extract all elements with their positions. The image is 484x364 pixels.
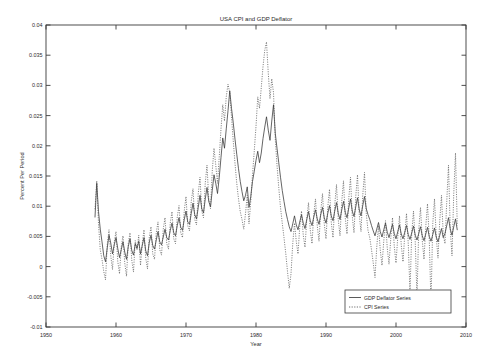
legend-label-gdp-deflator: GDP Deflator Series (364, 295, 411, 301)
y-axis-label: Percent Per Period (19, 152, 25, 199)
chart-legend[interactable]: GDP Deflator Series CPI Series (345, 290, 451, 313)
y-tick-label: 0.03 (32, 82, 43, 88)
y-tick-label: 0.04 (32, 22, 43, 28)
y-tick-label: 0.025 (29, 113, 43, 119)
x-tick-label: 1980 (250, 332, 262, 338)
legend-label-cpi: CPI Series (364, 304, 389, 310)
x-tick-label: 2010 (460, 332, 472, 338)
y-tick-label: 0.02 (32, 143, 43, 149)
data-series-group (95, 42, 457, 304)
y-tick-label: 0.035 (29, 52, 43, 58)
series-gdp-deflator (95, 91, 457, 262)
x-axis-label: Year (250, 341, 261, 347)
y-axis-ticks: -0.01-0.00500.0050.010.0150.020.0250.030… (27, 22, 466, 330)
x-tick-label: 1970 (180, 332, 192, 338)
legend-box (345, 290, 451, 313)
chart-title: USA CPI and GDP Deflator (220, 16, 293, 22)
figure-canvas: -0.01-0.00500.0050.010.0150.020.0250.030… (0, 0, 484, 364)
y-tick-label: 0 (40, 264, 43, 270)
series-cpi (95, 42, 457, 304)
x-tick-label: 1950 (40, 332, 52, 338)
x-tick-label: 1960 (110, 332, 122, 338)
x-tick-label: 1990 (320, 332, 332, 338)
y-tick-label: -0.005 (27, 294, 42, 300)
chart-plot[interactable]: -0.01-0.00500.0050.010.0150.020.0250.030… (0, 0, 484, 364)
y-tick-label: 0.01 (32, 203, 43, 209)
y-tick-label: 0.015 (29, 173, 43, 179)
plot-frame (46, 25, 466, 327)
y-tick-label: -0.01 (30, 324, 42, 330)
x-tick-label: 2000 (390, 332, 402, 338)
y-tick-label: 0.005 (29, 233, 43, 239)
